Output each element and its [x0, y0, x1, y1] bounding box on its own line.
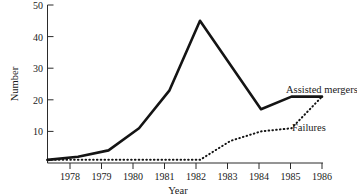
series-line-failures: [48, 97, 323, 160]
y-tick-label-30: 30: [33, 63, 43, 74]
x-tick-label-1983: 1983: [218, 171, 238, 182]
x-axis-group: 1978 1979 1980 1981 1982 1983 1984 1985 …: [48, 163, 333, 196]
y-tick-label-50: 50: [33, 0, 43, 11]
x-axis-title: Year: [168, 185, 188, 196]
series-label-assisted-mergers: Assisted mergers: [286, 84, 357, 95]
y-tick-label-10: 10: [33, 126, 43, 137]
series-line-assisted-mergers: [48, 21, 323, 160]
x-tick-label-1985: 1985: [281, 171, 301, 182]
y-axis-group: 50 40 30 20 10 Number: [9, 0, 54, 163]
series-label-failures: Failures: [292, 122, 326, 133]
chart-canvas: 50 40 30 20 10 Number 1978 1979 1980 198…: [0, 0, 357, 196]
line-chart: 50 40 30 20 10 Number 1978 1979 1980 198…: [0, 0, 357, 196]
x-tick-label-1986: 1986: [312, 171, 332, 182]
x-tick-label-1979: 1979: [92, 171, 112, 182]
y-tick-label-20: 20: [33, 95, 43, 106]
y-tick-label-40: 40: [33, 32, 43, 43]
x-tick-label-1980: 1980: [123, 171, 143, 182]
x-tick-label-1984: 1984: [249, 171, 269, 182]
x-tick-label-1982: 1982: [186, 171, 206, 182]
x-tick-label-1981: 1981: [155, 171, 175, 182]
y-axis-title: Number: [9, 66, 20, 101]
x-tick-label-1978: 1978: [60, 171, 80, 182]
